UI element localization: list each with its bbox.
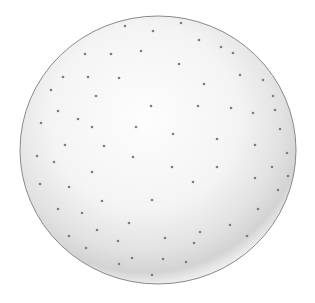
dot (151, 199, 154, 202)
dot (95, 95, 98, 98)
dot (286, 152, 289, 155)
dot (68, 186, 71, 189)
dot (151, 274, 154, 277)
dotted-sphere-illustration (0, 0, 315, 303)
dot (185, 261, 188, 264)
dot (40, 122, 43, 125)
dot (216, 138, 219, 141)
dot (164, 237, 167, 240)
dot (53, 161, 56, 164)
dot (229, 224, 232, 227)
dot (132, 156, 135, 159)
dot (172, 133, 175, 136)
dot (110, 53, 113, 56)
dot (254, 144, 257, 147)
dot (254, 177, 257, 180)
dot (68, 235, 71, 238)
dot (239, 74, 242, 77)
dot (81, 212, 84, 215)
dot (57, 208, 60, 211)
dot (118, 77, 121, 80)
dot (135, 126, 138, 129)
dot (140, 50, 143, 53)
dot (36, 155, 39, 158)
dot (152, 30, 155, 33)
dot (84, 53, 87, 56)
dot (87, 76, 90, 79)
dot (198, 39, 201, 42)
dot (279, 128, 282, 131)
dot (96, 229, 99, 232)
dot (57, 110, 60, 113)
dot (232, 52, 235, 55)
dot (203, 83, 206, 86)
dot (178, 63, 181, 66)
dot (128, 222, 131, 225)
dot (150, 105, 153, 108)
sphere (20, 16, 296, 284)
dot (274, 109, 277, 112)
dot (252, 112, 255, 115)
dot (64, 144, 67, 147)
dot (193, 242, 196, 245)
dot (262, 79, 265, 82)
dot (162, 258, 165, 261)
dot (197, 105, 200, 108)
dot (124, 25, 127, 28)
dot (277, 189, 280, 192)
dot (192, 181, 195, 184)
dot (220, 46, 223, 49)
dot (62, 76, 65, 79)
dot (272, 95, 275, 98)
dot (85, 247, 88, 250)
dot (103, 145, 106, 148)
dot (131, 257, 134, 260)
dot (171, 166, 174, 169)
dot (257, 208, 260, 211)
dot (271, 166, 274, 169)
dot (118, 263, 121, 266)
dot (91, 126, 94, 129)
dot (77, 118, 80, 121)
dot (246, 235, 249, 238)
dot (50, 89, 53, 92)
dot (199, 231, 202, 234)
dot (180, 22, 183, 25)
dot (216, 166, 219, 169)
dot (117, 240, 120, 243)
dot (101, 200, 104, 203)
dot (287, 175, 290, 178)
dot (230, 107, 233, 110)
dot (91, 171, 94, 174)
dot (39, 183, 42, 186)
